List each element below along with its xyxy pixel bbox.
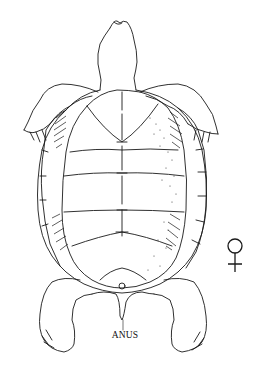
stipple-shading xyxy=(148,118,177,271)
head-outline xyxy=(98,21,137,90)
plastron-outline xyxy=(62,90,187,288)
anus-label: ANUS xyxy=(107,330,143,340)
turtle-illustration xyxy=(0,0,257,381)
female-symbol-icon xyxy=(222,236,248,276)
hatch-left-lower xyxy=(52,214,68,250)
tail xyxy=(92,292,154,320)
rear-right-limb xyxy=(154,278,207,352)
rear-left-limb xyxy=(40,278,93,352)
turtle-drawing xyxy=(0,0,257,381)
hatch-right-upper xyxy=(168,112,182,148)
